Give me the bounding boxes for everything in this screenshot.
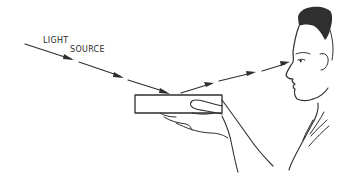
arrowhead-icon [246,71,256,76]
observer-head-profile [286,7,333,170]
reflection-diagram: LIGHT SOURCE [0,0,353,179]
arrowhead-icon [63,54,74,60]
arrowhead-icon [280,61,290,66]
light-source-label-line1: LIGHT [43,37,68,45]
arrowhead-icon [113,72,124,78]
arrowhead-icon [204,82,214,87]
reflecting-block [135,95,222,113]
light-source-label-line2: SOURCE [70,46,105,54]
hand-holding-block [160,100,273,172]
reflected-light-ray [181,61,290,93]
diagram-canvas [0,0,353,179]
arrowhead-icon [159,88,170,94]
